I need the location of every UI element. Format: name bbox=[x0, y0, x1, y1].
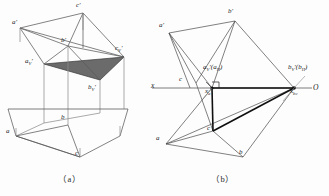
caption-panel-b: （b） bbox=[211, 172, 234, 184]
label-a-prime-panel-a: a' bbox=[12, 19, 17, 26]
edge-b-c-lower bbox=[68, 125, 80, 157]
label-b-prime-panel-a: b' bbox=[61, 37, 66, 44]
label-x-axis-panel-b: x bbox=[151, 82, 154, 90]
edge-bprime-av bbox=[44, 46, 68, 64]
figure-root: a' c' b' cV' aV' bV' a b c a' b' x c aV'… bbox=[0, 0, 329, 196]
edge-b-bprime-c bbox=[196, 21, 235, 83]
label-a-panel-b: a bbox=[156, 135, 160, 142]
label-origin-panel-b: O bbox=[313, 84, 318, 92]
shaded-triangle-face bbox=[44, 57, 124, 80]
edge-aprime-cprime bbox=[20, 13, 83, 28]
label-b-prime-panel-b: b' bbox=[228, 8, 233, 15]
label-c-prime-panel-a: c' bbox=[76, 2, 81, 9]
label-c-prime-panel-b: c bbox=[179, 76, 182, 83]
label-c-panel-b: c bbox=[207, 125, 210, 132]
panel-b-geometry bbox=[152, 21, 312, 157]
edge-b-aprime-bprime bbox=[169, 21, 235, 33]
edge-b-aprime-c bbox=[169, 33, 196, 83]
box-inner-left bbox=[16, 123, 44, 136]
edge-a-b-lower bbox=[16, 125, 68, 136]
box-edge-right bbox=[120, 109, 128, 136]
label-a-panel-a: a bbox=[6, 128, 10, 135]
box-bottom-right bbox=[80, 136, 120, 157]
engineering-drawing-svg bbox=[0, 0, 329, 196]
caption-panel-a: （a） bbox=[58, 172, 81, 184]
heavy-edge-av-c bbox=[212, 88, 213, 131]
heavy-edge-c-bv bbox=[213, 88, 294, 131]
panel-a-geometry bbox=[8, 13, 128, 157]
edge-cprime-bprime bbox=[68, 13, 83, 46]
label-bv-prime-panel-a: bV' bbox=[88, 84, 96, 93]
leader-bv-1 bbox=[294, 76, 305, 88]
edge-a-c-lower bbox=[16, 136, 80, 157]
edge-b-a-bv bbox=[166, 88, 294, 144]
edge-aprime-cv bbox=[20, 28, 124, 57]
label-bv-bh-panel-b: bV'(bH) bbox=[288, 64, 307, 73]
label-c-panel-a: c bbox=[75, 150, 78, 157]
label-cv-prime-panel-a: cV' bbox=[115, 45, 122, 54]
label-av-ah-panel-b: aV'(aH) bbox=[203, 64, 222, 73]
label-b-panel-a: b bbox=[61, 114, 65, 121]
box-inner-mid bbox=[44, 113, 100, 123]
label-xbc-panel-b: xbc bbox=[290, 88, 297, 97]
edge-b-a-c-lower bbox=[166, 131, 213, 144]
label-xa-panel-b: xa bbox=[205, 88, 210, 97]
edge-b-bprime-bv bbox=[235, 21, 294, 88]
edge-b-b-bv bbox=[243, 88, 294, 157]
edge-b-a-b-lower bbox=[166, 144, 243, 157]
edge-b-aprime-av bbox=[169, 33, 212, 88]
edge-b-bprime-av bbox=[212, 21, 235, 88]
label-a-prime-panel-b: a' bbox=[159, 22, 164, 29]
label-b-panel-b: b bbox=[239, 149, 243, 156]
label-av-prime-panel-a: aV' bbox=[25, 58, 33, 67]
